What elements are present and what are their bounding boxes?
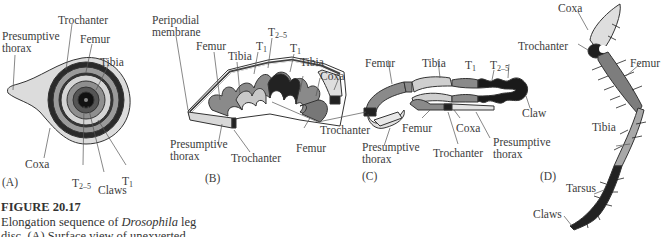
panel-tag-c: (C) bbox=[362, 170, 377, 182]
panel-a-disc bbox=[7, 57, 130, 144]
label-subscript: 1 bbox=[297, 47, 301, 56]
label-text: thorax bbox=[493, 148, 551, 160]
label-a-coxa: Coxa bbox=[25, 158, 49, 170]
caption-text: Elongation sequence of bbox=[1, 215, 121, 229]
label-text: T bbox=[490, 59, 497, 71]
label-text: T bbox=[465, 59, 472, 71]
caption-line-2: disc. (A) Surface view of unexverted bbox=[1, 229, 261, 237]
figure-caption: Elongation sequence of Drosophila leg di… bbox=[1, 215, 261, 237]
label-text: membrane bbox=[152, 26, 201, 38]
label-b-femur-2: Femur bbox=[296, 142, 326, 154]
label-c-femur: Femur bbox=[365, 57, 395, 69]
label-a-tibia: Tibia bbox=[100, 56, 124, 68]
label-subscript: 1 bbox=[129, 180, 133, 189]
label-d-claws: Claws bbox=[533, 208, 562, 220]
label-c-presumptive-thorax-2: Presumptive thorax bbox=[493, 136, 551, 160]
label-b-coxa: Coxa bbox=[320, 70, 344, 82]
label-b-peripodial-membrane: Peripodial membrane bbox=[152, 14, 201, 38]
label-c-presumptive-thorax: Presumptive thorax bbox=[362, 141, 420, 165]
label-text: Presumptive bbox=[170, 138, 228, 150]
figure-number: FIGURE 20.17 bbox=[1, 200, 81, 215]
label-b-t2-5: T2–5 bbox=[268, 26, 287, 38]
caption-text: leg bbox=[178, 215, 196, 229]
label-b-t1-a: T1 bbox=[256, 40, 267, 52]
label-a-femur: Femur bbox=[80, 33, 110, 45]
label-c-tibia: Tibia bbox=[422, 57, 446, 69]
label-text: Presumptive bbox=[493, 136, 551, 148]
label-subscript: 2–5 bbox=[79, 182, 91, 191]
label-text: thorax bbox=[2, 42, 60, 54]
label-d-coxa: Coxa bbox=[558, 2, 582, 14]
label-b-t1-b: T1 bbox=[290, 42, 301, 54]
panel-tag-a: (A) bbox=[2, 176, 18, 188]
label-b-tibia-2: Tibia bbox=[300, 56, 324, 68]
label-b-tibia: Tibia bbox=[228, 50, 252, 62]
label-b-presumptive-thorax: Presumptive thorax bbox=[170, 138, 228, 162]
label-d-femur: Femur bbox=[630, 57, 660, 69]
caption-line-1: Elongation sequence of Drosophila leg bbox=[1, 215, 261, 229]
label-a-presumptive-thorax: Presumptive thorax bbox=[2, 30, 60, 54]
panel-c-elongated-leg bbox=[364, 77, 528, 129]
label-text: Presumptive bbox=[2, 30, 60, 42]
label-subscript: 2–5 bbox=[497, 64, 509, 73]
panel-tag-b: (B) bbox=[205, 172, 220, 184]
label-c-trochanter-2: Trochanter bbox=[433, 147, 483, 159]
label-c-trochanter: Trochanter bbox=[320, 124, 370, 136]
label-c-t1: T1 bbox=[465, 59, 476, 71]
label-b-femur: Femur bbox=[196, 40, 226, 52]
label-b-trochanter: Trochanter bbox=[231, 152, 281, 164]
label-subscript: 1 bbox=[263, 45, 267, 54]
panel-tag-d: (D) bbox=[540, 170, 556, 182]
label-a-t1: T1 bbox=[122, 175, 133, 187]
label-d-tarsus: Tarsus bbox=[566, 182, 596, 194]
label-text: Presumptive bbox=[362, 141, 420, 153]
label-a-t2-5: T2–5 bbox=[72, 177, 91, 189]
label-c-coxa: Coxa bbox=[456, 122, 480, 134]
label-text: Peripodial bbox=[152, 14, 201, 26]
label-text: T bbox=[268, 26, 275, 38]
caption-text: disc. (A) Surface view of unexverted bbox=[1, 229, 186, 237]
label-subscript: 1 bbox=[472, 64, 476, 73]
label-text: T bbox=[72, 177, 79, 189]
label-d-trochanter: Trochanter bbox=[518, 40, 568, 52]
label-subscript: 2–5 bbox=[275, 31, 287, 40]
label-text: T bbox=[122, 175, 129, 187]
label-c-claw: Claw bbox=[522, 107, 546, 119]
panel-d-adult-leg bbox=[570, 4, 644, 230]
label-text: thorax bbox=[362, 153, 420, 165]
caption-italic: Drosophila bbox=[121, 215, 178, 229]
label-d-tibia: Tibia bbox=[592, 121, 616, 133]
label-c-femur-2: Femur bbox=[402, 122, 432, 134]
label-text: T bbox=[256, 40, 263, 52]
label-a-trochanter: Trochanter bbox=[58, 14, 108, 26]
label-text: T bbox=[290, 42, 297, 54]
label-c-t2-5: T2–5 bbox=[490, 59, 509, 71]
label-text: thorax bbox=[170, 150, 228, 162]
